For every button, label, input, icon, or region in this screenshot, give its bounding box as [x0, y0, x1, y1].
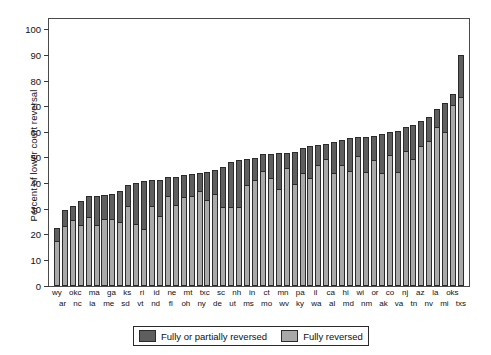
x-axis-label-tn: tn — [410, 299, 417, 309]
bar-nm[interactable] — [363, 137, 369, 286]
bar-ca[interactable] — [323, 144, 329, 286]
bar-oh[interactable] — [189, 174, 195, 286]
bar-wv[interactable] — [284, 153, 290, 286]
bar-al[interactable] — [331, 142, 337, 286]
bar-ar[interactable] — [62, 210, 68, 286]
bar-slot — [108, 19, 116, 286]
bar-wi[interactable] — [355, 137, 361, 286]
bar-segment-fully-reversed — [260, 171, 266, 286]
bar-or[interactable] — [371, 136, 377, 286]
bar-segment-fully-or-partially-reversed — [101, 195, 107, 219]
bar-nh[interactable] — [228, 162, 234, 286]
bar-segment-fully-reversed — [109, 219, 115, 286]
bar-ga[interactable] — [101, 195, 107, 286]
bar-nd[interactable] — [157, 180, 163, 286]
x-axis-label-nc: nc — [73, 299, 81, 309]
bar-hi[interactable] — [339, 140, 345, 286]
bar-ms[interactable] — [252, 158, 258, 286]
bar-tn[interactable] — [410, 125, 416, 286]
bar-segment-fully-reversed — [70, 220, 76, 286]
chart-legend: Fully or partially reversed Fully revers… — [133, 326, 369, 346]
x-axis-label-ny: ny — [197, 299, 205, 309]
x-axis-label-empty — [372, 299, 379, 309]
bar-ks[interactable] — [117, 191, 123, 286]
x-axis-label-empty — [116, 288, 123, 298]
bar-segment-fully-reversed — [292, 184, 298, 286]
x-axis-label-empty — [131, 288, 138, 298]
bar-mi[interactable] — [442, 103, 448, 286]
bar-ma[interactable] — [86, 196, 92, 286]
bar-slot — [116, 19, 124, 286]
bar-segment-fully-reversed — [165, 196, 171, 286]
bar-co[interactable] — [387, 132, 393, 286]
bar-segment-fully-or-partially-reversed — [173, 177, 179, 205]
bar-slot — [322, 19, 330, 286]
bar-segment-fully-or-partially-reversed — [371, 136, 377, 160]
bar-segment-fully-reversed — [78, 225, 84, 286]
bar-ak[interactable] — [379, 134, 385, 286]
x-axis-label-va: va — [395, 299, 403, 309]
bar-mn[interactable] — [276, 153, 282, 286]
legend-item-fully-or-partially-reversed: Fully or partially reversed — [139, 330, 267, 342]
bar-nc[interactable] — [78, 201, 84, 286]
bar-okc[interactable] — [70, 206, 76, 286]
x-axis-label-empty — [206, 299, 213, 309]
bar-segment-fully-or-partially-reversed — [212, 170, 218, 195]
bar-ri[interactable] — [133, 183, 139, 286]
bar-segment-fully-or-partially-reversed — [442, 103, 448, 133]
x-axis-label-empty — [335, 288, 342, 298]
bar-vt[interactable] — [141, 181, 147, 286]
x-axis-label-empty — [190, 299, 197, 309]
bar-az[interactable] — [418, 121, 424, 286]
bar-slot — [425, 19, 433, 286]
x-axis-label-ct: ct — [263, 288, 270, 298]
bar-wa[interactable] — [315, 145, 321, 286]
bar-segment-fully-or-partially-reversed — [70, 206, 76, 220]
bar-txc[interactable] — [197, 173, 203, 286]
bar-id[interactable] — [149, 180, 155, 286]
bar-mo[interactable] — [268, 154, 274, 286]
bar-segment-fully-or-partially-reversed — [78, 201, 84, 225]
bar-il[interactable] — [307, 146, 313, 286]
bar-la[interactable] — [434, 109, 440, 286]
bar-me[interactable] — [109, 194, 115, 286]
bar-in[interactable] — [244, 159, 250, 286]
bar-ct[interactable] — [260, 154, 266, 286]
bar-slot — [441, 19, 449, 286]
bar-ne[interactable] — [165, 177, 171, 286]
bar-fl[interactable] — [173, 177, 179, 286]
bar-nj[interactable] — [403, 127, 409, 286]
bar-ky[interactable] — [300, 148, 306, 286]
bar-slot — [330, 19, 338, 286]
x-axis-label-empty — [210, 288, 217, 298]
x-axis-label-empty — [433, 299, 440, 309]
x-axis-label-empty — [256, 288, 263, 298]
bar-md[interactable] — [347, 138, 353, 286]
bar-mt[interactable] — [181, 175, 187, 286]
bar-segment-fully-reversed — [355, 156, 361, 286]
bar-segment-fully-or-partially-reversed — [284, 153, 290, 168]
bar-segment-fully-reversed — [395, 172, 401, 286]
bar-va[interactable] — [395, 131, 401, 286]
bar-sd[interactable] — [125, 185, 131, 286]
bar-de[interactable] — [220, 167, 226, 286]
bar-segment-fully-or-partially-reversed — [117, 191, 123, 221]
bar-pa[interactable] — [292, 152, 298, 286]
bar-segment-fully-or-partially-reversed — [363, 137, 369, 172]
bar-oks[interactable] — [450, 94, 456, 286]
bar-ia[interactable] — [94, 196, 100, 286]
x-axis-label-ri: ri — [138, 288, 145, 298]
bar-ny[interactable] — [204, 172, 210, 286]
x-axis-label-empty — [144, 299, 151, 309]
bar-nv[interactable] — [426, 117, 432, 286]
bar-segment-fully-or-partially-reversed — [395, 131, 401, 172]
x-axis-label-empty — [254, 299, 261, 309]
legend-swatch-icon-dark — [139, 330, 156, 342]
bar-wy[interactable] — [54, 228, 60, 286]
bar-sc[interactable] — [212, 170, 218, 286]
bar-segment-fully-or-partially-reversed — [307, 146, 313, 179]
bar-ut[interactable] — [236, 160, 242, 286]
x-axis-label-az: az — [416, 288, 424, 298]
bar-txs[interactable] — [458, 55, 464, 286]
chart-figure: Percent of lower court reversal 01020304… — [0, 0, 491, 355]
